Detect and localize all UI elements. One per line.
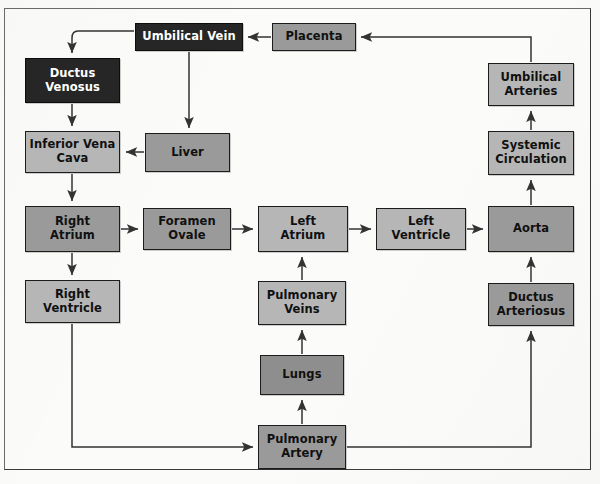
node-label-foramen-ovale: Foramen Ovale <box>158 215 215 242</box>
node-placenta[interactable]: Placenta <box>272 23 356 51</box>
node-left-atrium[interactable]: Left Atrium <box>258 206 348 252</box>
edge-umbilical-arteries-to-placenta <box>361 37 531 62</box>
node-systemic-circulation[interactable]: Systemic Circulation <box>488 131 574 175</box>
node-label-umbilical-arteries: Umbilical Arteries <box>501 71 562 98</box>
node-umbilical-arteries[interactable]: Umbilical Arteries <box>488 63 574 106</box>
node-label-ductus-arteriosus: Ductus Arteriosus <box>497 291 565 318</box>
node-label-pulmonary-artery: Pulmonary Artery <box>267 433 337 460</box>
node-label-lungs: Lungs <box>282 368 321 382</box>
node-label-left-ventricle: Left Ventricle <box>392 215 451 242</box>
node-label-liver: Liver <box>171 146 204 160</box>
node-inferior-vena-cava[interactable]: Inferior Vena Cava <box>25 131 120 173</box>
node-aorta[interactable]: Aorta <box>488 206 574 252</box>
node-label-systemic-circulation: Systemic Circulation <box>495 139 566 166</box>
node-label-right-atrium: Right Atrium <box>50 215 95 242</box>
edge-right-ventricle-to-pulmonary-artery <box>72 324 253 447</box>
node-ductus-arteriosus[interactable]: Ductus Arteriosus <box>488 283 574 326</box>
node-label-left-atrium: Left Atrium <box>281 215 326 242</box>
edge-umbilical-vein-to-ductus-venosus <box>72 31 134 53</box>
node-liver[interactable]: Liver <box>145 133 230 172</box>
edge-pulmonary-artery-to-ductus-arteriosus <box>347 331 531 447</box>
node-label-aorta: Aorta <box>513 222 549 236</box>
node-label-umbilical-vein: Umbilical Vein <box>142 30 236 44</box>
node-ductus-venosus[interactable]: Ductus Venosus <box>25 58 120 103</box>
diagram-canvas: Umbilical VeinPlacentaDuctus VenosusUmbi… <box>0 0 600 484</box>
node-pulmonary-artery[interactable]: Pulmonary Artery <box>258 425 346 469</box>
node-left-ventricle[interactable]: Left Ventricle <box>376 208 466 250</box>
node-umbilical-vein[interactable]: Umbilical Vein <box>135 23 243 51</box>
node-label-ductus-venosus: Ductus Venosus <box>45 67 100 94</box>
node-foramen-ovale[interactable]: Foramen Ovale <box>143 208 231 250</box>
node-label-right-ventricle: Right Ventricle <box>43 288 102 315</box>
node-label-inferior-vena-cava: Inferior Vena Cava <box>30 138 116 165</box>
node-right-atrium[interactable]: Right Atrium <box>25 206 120 252</box>
node-pulmonary-veins[interactable]: Pulmonary Veins <box>258 281 346 325</box>
node-label-placenta: Placenta <box>286 30 343 44</box>
node-label-pulmonary-veins: Pulmonary Veins <box>267 289 337 316</box>
node-lungs[interactable]: Lungs <box>260 355 344 395</box>
node-right-ventricle[interactable]: Right Ventricle <box>25 280 120 323</box>
